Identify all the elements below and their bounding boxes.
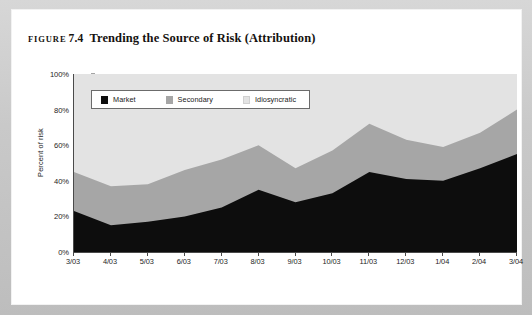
figure-frame: FIGURE7.4Trending the Source of Risk (At… bbox=[0, 0, 532, 315]
x-tick-label: 5/03 bbox=[127, 257, 167, 266]
chart-container: Percent of risk 0%20%40%60%80%100% Marke… bbox=[11, 9, 522, 304]
x-tick-label: 7/03 bbox=[201, 257, 241, 266]
plot-area: MarketSecondaryIdiosyncratic bbox=[73, 74, 517, 253]
x-tick-mark bbox=[73, 252, 74, 256]
y-tick-label: 60% bbox=[35, 141, 69, 150]
x-tick-label: 3/04 bbox=[496, 257, 532, 266]
chart-legend: MarketSecondaryIdiosyncratic bbox=[91, 90, 310, 109]
y-tick-label: 100% bbox=[35, 70, 69, 79]
y-tick-label: 80% bbox=[35, 105, 69, 114]
x-tick-label: 4/03 bbox=[90, 257, 130, 266]
x-tick-label: 9/03 bbox=[275, 257, 315, 266]
x-tick-label: 3/03 bbox=[53, 257, 93, 266]
legend-label: Market bbox=[113, 95, 136, 104]
legend-item-market[interactable]: Market bbox=[101, 95, 136, 104]
legend-swatch-icon bbox=[101, 96, 108, 104]
x-tick-mark bbox=[258, 252, 259, 256]
x-tick-mark bbox=[221, 252, 222, 256]
x-tick-label: 11/03 bbox=[348, 257, 388, 266]
legend-swatch-icon bbox=[243, 96, 250, 104]
x-tick-label: 2/04 bbox=[459, 257, 499, 266]
y-tick-label: 0% bbox=[35, 248, 69, 257]
x-tick-mark bbox=[184, 252, 185, 256]
x-tick-label: 1/04 bbox=[422, 257, 462, 266]
x-tick-mark bbox=[516, 252, 517, 256]
x-tick-mark bbox=[147, 252, 148, 256]
y-tick-label: 20% bbox=[35, 212, 69, 221]
figure-inner-panel: FIGURE7.4Trending the Source of Risk (At… bbox=[11, 9, 522, 305]
legend-item-secondary[interactable]: Secondary bbox=[166, 95, 213, 104]
legend-swatch-icon bbox=[166, 96, 173, 104]
x-tick-label: 10/03 bbox=[311, 257, 351, 266]
x-tick-mark bbox=[110, 252, 111, 256]
x-tick-mark bbox=[405, 252, 406, 256]
y-tick-label: 40% bbox=[35, 176, 69, 185]
x-tick-mark bbox=[442, 252, 443, 256]
x-axis-ticks: 3/034/035/036/037/038/039/0310/0311/0312… bbox=[73, 257, 516, 271]
x-tick-mark bbox=[331, 252, 332, 256]
x-tick-mark bbox=[368, 252, 369, 256]
x-tick-label: 6/03 bbox=[164, 257, 204, 266]
x-tick-label: 12/03 bbox=[385, 257, 425, 266]
x-tick-mark bbox=[479, 252, 480, 256]
legend-label: Secondary bbox=[178, 95, 213, 104]
legend-item-idiosyncratic[interactable]: Idiosyncratic bbox=[243, 95, 296, 104]
legend-label: Idiosyncratic bbox=[255, 95, 296, 104]
x-tick-mark bbox=[295, 252, 296, 256]
x-tick-label: 8/03 bbox=[238, 257, 278, 266]
